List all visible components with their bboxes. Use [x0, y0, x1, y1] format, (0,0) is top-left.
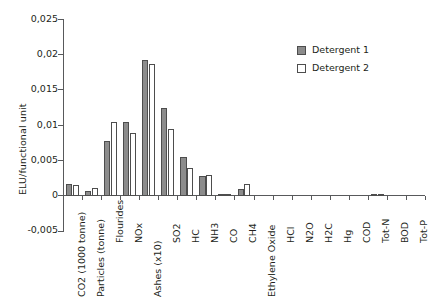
y-axis-lower-cap	[58, 231, 64, 232]
x-axis-label: CO	[229, 229, 239, 243]
y-axis-tick-labels: 0,0250,020,0150,010,0050-0,005	[0, 0, 58, 240]
legend-swatch-icon	[297, 64, 306, 73]
legend-entry-detergent-1: Detergent 1	[297, 41, 417, 59]
y-axis-tick-label: -0,005	[6, 225, 58, 235]
x-axis-tick	[273, 196, 274, 200]
bar-detergent-1	[218, 194, 224, 196]
y-axis-tick	[58, 160, 63, 161]
x-axis-label: N2O	[305, 222, 315, 243]
x-axis-label: H2C	[324, 223, 334, 243]
x-axis-tick	[292, 196, 293, 200]
bar-detergent-1	[142, 60, 148, 196]
x-axis-tick	[177, 196, 178, 200]
bar-detergent-1	[85, 191, 91, 196]
y-axis-tick	[58, 125, 63, 126]
x-axis-tick	[139, 196, 140, 200]
y-axis-tick	[58, 89, 63, 90]
bar-detergent-1	[238, 189, 244, 196]
y-axis-tick	[58, 195, 63, 196]
bar-detergent-2	[244, 184, 250, 196]
y-axis-tick-label: 0,02	[6, 49, 58, 59]
x-axis-label: Flourides	[115, 200, 125, 243]
x-axis-tick	[368, 196, 369, 200]
x-axis-label: NOx	[134, 223, 144, 243]
bar-detergent-1	[123, 122, 129, 196]
x-axis-label: HCl	[286, 227, 296, 243]
x-axis-tick	[254, 196, 255, 200]
x-axis-label: CO2 (1000 tonne)	[77, 212, 87, 297]
x-axis-tick	[234, 196, 235, 200]
legend-label: Detergent 1	[312, 45, 369, 55]
bar-detergent-2	[73, 185, 79, 196]
x-axis-label: SO2	[172, 223, 182, 243]
x-axis-label: BOD	[400, 222, 410, 243]
bar-detergent-1	[199, 176, 205, 196]
chart-legend: Detergent 1 Detergent 2	[297, 41, 417, 77]
x-axis-tick	[406, 196, 407, 200]
x-axis-label: COD	[362, 222, 372, 243]
x-axis-label: CH4	[248, 223, 258, 243]
y-axis-tick	[58, 54, 63, 55]
x-axis-tick	[349, 196, 350, 200]
y-axis-tick-label: 0	[6, 190, 58, 200]
x-axis-label: Ethylene Oxide	[267, 225, 277, 297]
bar-detergent-2	[149, 64, 155, 196]
bar-detergent-2	[168, 129, 174, 196]
x-axis-label: Ashes (x10)	[153, 241, 163, 297]
x-axis-tick	[215, 196, 216, 200]
y-axis-tick-label: 0,025	[6, 14, 58, 24]
bar-detergent-2	[187, 168, 193, 196]
bar-detergent-2	[206, 175, 212, 196]
x-axis-tick	[330, 196, 331, 200]
bar-detergent-2	[225, 194, 231, 196]
y-axis-tick-label: 0,015	[6, 84, 58, 94]
x-axis-label: Tot-N	[381, 219, 391, 243]
x-axis-tick	[120, 196, 121, 200]
legend-entry-detergent-2: Detergent 2	[297, 59, 417, 77]
x-axis-label: Particles (tonne)	[96, 219, 106, 297]
y-axis-lower-stub	[63, 196, 64, 232]
bar-detergent-2	[92, 188, 98, 196]
x-axis-label: NH3	[210, 223, 220, 243]
legend-label: Detergent 2	[312, 63, 369, 73]
bar-detergent-2	[130, 133, 136, 196]
y-axis-tick-label: 0,005	[6, 155, 58, 165]
x-axis-tick	[425, 196, 426, 200]
bar-detergent-1	[371, 194, 377, 196]
x-axis-tick	[82, 196, 83, 200]
bar-detergent-1	[180, 157, 186, 196]
legend-swatch-icon	[297, 46, 306, 55]
y-axis-line	[63, 19, 64, 196]
bar-detergent-2	[111, 122, 117, 196]
x-axis-label: Hg	[343, 230, 353, 243]
x-axis-label: HC	[191, 229, 201, 243]
x-axis-tick	[196, 196, 197, 200]
x-axis-tick	[158, 196, 159, 200]
x-axis-tick	[387, 196, 388, 200]
x-axis-tick	[311, 196, 312, 200]
x-axis-tick	[101, 196, 102, 200]
x-axis-label: Tot-P	[419, 220, 429, 243]
bar-detergent-1	[161, 108, 167, 196]
y-axis-tick-label: 0,01	[6, 120, 58, 130]
y-axis-tick	[58, 19, 63, 20]
bar-detergent-1	[66, 184, 72, 196]
bar-detergent-2	[378, 194, 384, 196]
bar-detergent-1	[104, 141, 110, 196]
bar-chart-figure: ELU/functional unit 0,0250,020,0150,010,…	[0, 0, 431, 301]
